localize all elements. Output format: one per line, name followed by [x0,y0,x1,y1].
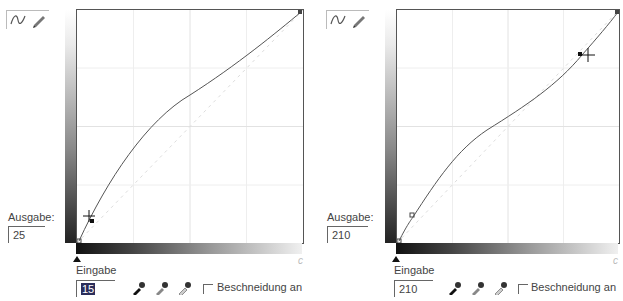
clipping-checkbox[interactable] [518,284,528,294]
curve-graph[interactable] [76,9,304,244]
white-eyedropper-icon[interactable] [177,281,191,295]
black-eyedropper-icon[interactable] [447,281,461,295]
pencil-tool-icon[interactable] [351,12,367,28]
output-gradient-bar [65,10,76,243]
output-label: Ausgabe: [8,211,54,223]
clipping-label: Beschneidung an [531,281,618,293]
pencil-tool-icon[interactable] [31,12,47,28]
black-point-slider[interactable] [392,256,400,262]
input-gradient-bar [396,243,618,254]
curve-tools [326,10,369,29]
curve-graph[interactable] [396,9,620,244]
white-point-marker[interactable]: c [613,255,618,266]
curve-tool-icon[interactable] [329,12,347,28]
black-eyedropper-icon[interactable] [131,281,145,295]
input-field[interactable]: 15 [76,280,115,297]
output-label: Ausgabe: [327,211,373,223]
input-label: Eingabe [76,264,116,276]
control-point [90,219,94,223]
output-field[interactable]: 210 [327,226,368,243]
white-point-marker[interactable]: c [298,255,303,266]
gray-eyedropper-icon[interactable] [470,281,484,295]
curves-panel-left: c Ausgabe: 25 Eingabe 15 Beschneidung an… [0,0,305,301]
curve-tool-icon[interactable] [9,12,27,28]
input-value-selected: 15 [81,283,95,295]
curves-panel-right: c Ausgabe: 210 Eingabe 210 Beschneidung … [318,0,623,301]
curve-tools [6,10,49,29]
white-eyedropper-icon[interactable] [493,281,507,295]
output-gradient-bar [385,10,396,243]
input-gradient-bar [76,243,302,254]
gray-eyedropper-icon[interactable] [154,281,168,295]
input-field[interactable]: 210 [394,280,433,297]
move-cursor-icon [581,48,595,62]
input-label: Eingabe [394,264,434,276]
clipping-checkbox[interactable] [203,284,213,294]
output-field[interactable]: 25 [8,226,45,243]
black-point-slider[interactable] [73,256,81,262]
clipping-label: Beschneidung an: [217,281,302,293]
